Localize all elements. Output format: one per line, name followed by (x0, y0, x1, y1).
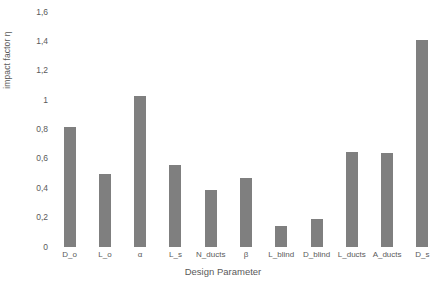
x-axis-tick-label: α (138, 250, 143, 260)
bar-slot (193, 12, 228, 247)
bar (169, 165, 181, 247)
y-axis-title: impact factor η (2, 0, 16, 120)
x-axis-tick-label: D_o (62, 250, 77, 260)
x-axis-tick-label: β (244, 250, 249, 260)
bar (240, 178, 252, 247)
x-axis-tick-label: L_ducts (338, 250, 366, 260)
bar (311, 219, 323, 247)
bar (346, 152, 358, 247)
plot-area (52, 12, 440, 247)
bar (416, 40, 428, 247)
y-axis-tick-label: 0,6 (18, 154, 48, 163)
y-axis-tick-label: 0,2 (18, 213, 48, 222)
bar-slot (369, 12, 404, 247)
y-axis-tick-label: 1 (18, 96, 48, 105)
bar (381, 153, 393, 247)
bar-slot (334, 12, 369, 247)
bar-slot (87, 12, 122, 247)
x-axis-tick-label: A_ducts (373, 250, 402, 260)
bar-slot (228, 12, 263, 247)
bar (275, 226, 287, 247)
bar (64, 127, 76, 247)
y-axis-tick-label: 0 (18, 243, 48, 252)
bar (134, 96, 146, 247)
x-axis-tick-label: N_ducts (196, 250, 225, 260)
y-axis-tick-label: 1,2 (18, 66, 48, 75)
bar (99, 174, 111, 247)
y-axis-tick-label: 1,6 (18, 8, 48, 17)
y-axis-tick-labels: 1,61,41,210,80,60,40,20 (18, 0, 48, 289)
bar-slot (405, 12, 440, 247)
bar-slot (158, 12, 193, 247)
x-axis-tick-label: L_o (98, 250, 111, 260)
x-axis-tick-label: D_s (415, 250, 429, 260)
y-axis-tick-label: 0,8 (18, 125, 48, 134)
x-axis-title: Design Parameter (0, 266, 446, 277)
x-axis-tick-label: D_blind (303, 250, 330, 260)
x-axis-tick-labels: D_oL_oαL_sN_ductsβL_blindD_blindL_ductsA… (52, 250, 440, 264)
y-axis-tick-label: 0,4 (18, 184, 48, 193)
bar-slot (264, 12, 299, 247)
bar-chart: impact factor η 1,61,41,210,80,60,40,20 … (0, 0, 446, 289)
bar-slot (299, 12, 334, 247)
bar (205, 190, 217, 247)
bar-slot (123, 12, 158, 247)
x-axis-tick-label: L_blind (268, 250, 294, 260)
x-axis-tick-label: L_s (169, 250, 182, 260)
bar-slot (52, 12, 87, 247)
y-axis-tick-label: 1,4 (18, 37, 48, 46)
